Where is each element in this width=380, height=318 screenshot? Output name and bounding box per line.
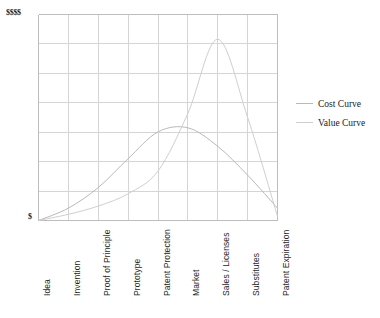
legend-swatch-icon <box>296 103 313 104</box>
patent-value-cost-chart: $$$$ $ IdeaInventionProof of PrinciplePr… <box>0 0 380 318</box>
legend-swatch-icon <box>296 122 313 123</box>
legend-item: Cost Curve <box>296 94 380 113</box>
plot-area <box>0 0 380 318</box>
legend-label: Cost Curve <box>318 99 361 109</box>
chart-legend: Cost CurveValue Curve <box>296 94 380 132</box>
legend-label: Value Curve <box>318 118 365 128</box>
legend-item: Value Curve <box>296 113 380 132</box>
grid-lines <box>39 15 278 221</box>
